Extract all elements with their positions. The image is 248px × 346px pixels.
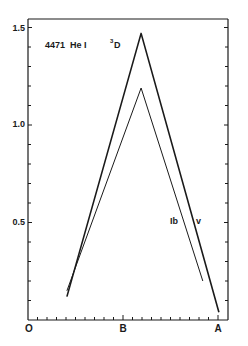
series-ib-label: Ib — [170, 216, 179, 226]
x-ticks — [38, 315, 219, 320]
x-tick-label-o: O — [25, 323, 33, 334]
term-label: D — [114, 40, 121, 50]
series-ib-line — [67, 88, 203, 291]
chart: 1.5 1.0 0.5 O B A 4471 He I 3 D Ib v — [0, 0, 248, 346]
series-v-line — [67, 33, 219, 312]
x-tick-label-b: B — [119, 323, 126, 334]
y-tick-label-0-5: 0.5 — [12, 217, 25, 227]
x-tick-label-a: A — [214, 323, 221, 334]
series-v-label: v — [196, 216, 201, 226]
y-ticks — [28, 28, 228, 301]
y-tick-label-1-5: 1.5 — [12, 23, 25, 33]
chart-title: 4471 He I — [45, 40, 87, 50]
plot-frame — [28, 19, 228, 320]
y-tick-label-1-0: 1.0 — [12, 119, 25, 129]
